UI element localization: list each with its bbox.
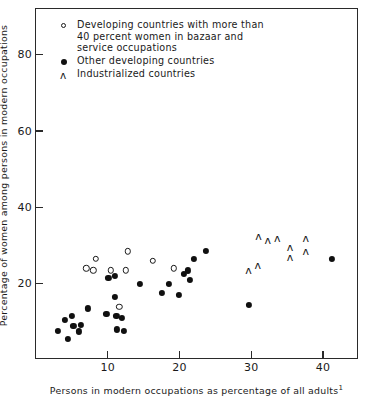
- plot-frame: 20406080 10203040 ʌʌʌʌʌʌʌʌʌ Developing c…: [35, 8, 358, 359]
- data-point: [105, 275, 111, 281]
- x-tick-label: 10: [100, 361, 115, 375]
- legend-item: Other developing countries: [60, 55, 310, 67]
- y-tick-label: 60: [17, 124, 32, 139]
- data-point: ʌ: [273, 232, 282, 243]
- data-point: ʌ: [253, 259, 262, 270]
- data-point: [329, 256, 335, 262]
- data-point: [90, 267, 96, 273]
- data-point: [62, 317, 68, 323]
- data-point: [166, 281, 172, 287]
- data-point: ʌ: [301, 246, 310, 257]
- y-tick-label: 20: [17, 276, 32, 291]
- data-point: [176, 292, 182, 298]
- data-point: [65, 336, 71, 342]
- chart-legend: Developing countries with more than40 pe…: [60, 19, 310, 81]
- legend-label-line: 40 percent women in bazaar and: [77, 31, 310, 43]
- data-point: [55, 328, 61, 334]
- legend-label-line: Industrialized countries: [77, 68, 310, 80]
- data-point: [120, 328, 126, 334]
- data-point: [246, 302, 252, 308]
- triangle-glyph: ʌ: [60, 70, 66, 81]
- data-point: [83, 265, 89, 271]
- data-point: ʌ: [301, 232, 310, 243]
- data-point: [203, 248, 209, 254]
- data-point: [114, 326, 120, 332]
- legend-item: Developing countries with more than40 pe…: [60, 19, 310, 54]
- data-point: [103, 311, 109, 317]
- filled-circle-glyph: [61, 59, 67, 65]
- data-point: [171, 265, 177, 271]
- open-circle-icon: [60, 20, 71, 31]
- data-point: [191, 256, 197, 262]
- data-point: [69, 313, 75, 319]
- data-point: [150, 258, 156, 264]
- y-tick-label: 80: [17, 47, 32, 62]
- scatter-plot-figure: 20406080 10203040 ʌʌʌʌʌʌʌʌʌ Developing c…: [0, 0, 375, 402]
- data-point: [85, 305, 91, 311]
- data-point: [159, 290, 165, 296]
- data-point: [112, 294, 118, 300]
- x-tick-label: 40: [316, 361, 331, 375]
- data-point: [185, 267, 191, 273]
- legend-label-line: Developing countries with more than: [77, 19, 310, 31]
- data-point: [187, 277, 193, 283]
- y-tick-label: 40: [17, 200, 32, 215]
- x-tick-label: 20: [172, 361, 187, 375]
- x-tick-label: 30: [244, 361, 259, 375]
- data-point: [92, 256, 98, 262]
- open-circle-glyph: [61, 23, 66, 28]
- data-point: [125, 248, 131, 254]
- data-point: [116, 303, 122, 309]
- y-axis-label: Percentage of women among persons in mod…: [0, 0, 12, 351]
- legend-label-line: Other developing countries: [77, 55, 310, 67]
- data-point: ʌ: [254, 231, 263, 242]
- data-point: [76, 328, 82, 334]
- legend-item: ʌIndustrialized countries: [60, 68, 310, 80]
- data-point: [77, 322, 83, 328]
- data-point: [112, 273, 118, 279]
- triangle-icon: ʌ: [60, 69, 71, 80]
- legend-label-line: service occupations: [77, 42, 310, 54]
- data-point: ʌ: [263, 234, 272, 245]
- data-point: [119, 315, 125, 321]
- data-point: ʌ: [286, 251, 295, 262]
- filled-circle-icon: [60, 56, 71, 67]
- data-point: [70, 323, 76, 329]
- data-point: [123, 267, 129, 273]
- x-axis-label: Persons in modern occupations as percent…: [35, 381, 358, 398]
- data-point: ʌ: [244, 265, 253, 276]
- data-point: [137, 281, 143, 287]
